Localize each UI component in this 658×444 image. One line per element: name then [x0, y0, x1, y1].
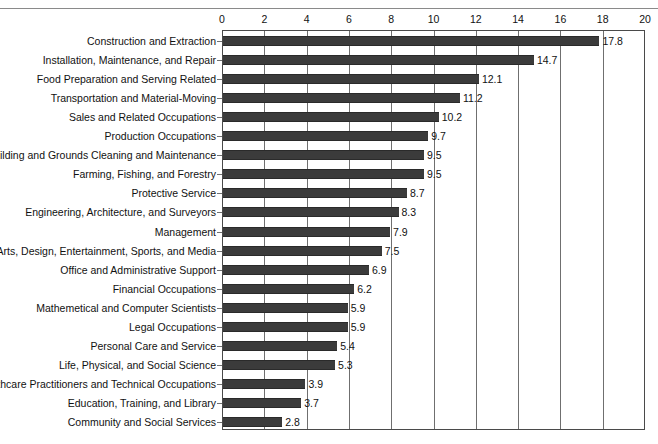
bar-row: Building and Grounds Cleaning and Mainte…: [0, 146, 658, 165]
category-axis-tick: [217, 422, 222, 423]
bar: [223, 112, 439, 122]
bar: [223, 379, 305, 389]
chart-page: 02468101214161820 Construction and Extra…: [0, 0, 658, 444]
bar: [223, 284, 354, 294]
bar-value-label: 9.5: [427, 165, 442, 184]
bar-row: Engineering, Architecture, and Surveyors…: [0, 203, 658, 222]
category-axis-tick: [217, 270, 222, 271]
x-tick-12: 12: [470, 12, 482, 26]
x-tick-0: 0: [219, 12, 225, 26]
bar-value-label: 5.4: [340, 337, 355, 356]
bar-row: Protective Service8.7: [0, 184, 658, 203]
category-axis-tick: [217, 308, 222, 309]
bar-value-label: 5.3: [338, 356, 353, 375]
bar: [223, 246, 382, 256]
bar-row: Construction and Extraction17.8: [0, 32, 658, 51]
category-label: Mathemetical and Computer Scientists: [36, 299, 216, 318]
x-tick-14: 14: [512, 12, 524, 26]
category-axis-tick: [217, 60, 222, 61]
horizontal-bar-chart: 02468101214161820 Construction and Extra…: [0, 12, 658, 444]
bar-row: Arts, Design, Entertainment, Sports, and…: [0, 242, 658, 261]
x-tick-16: 16: [555, 12, 567, 26]
category-label: Life, Physical, and Social Science: [59, 356, 216, 375]
x-axis-tick-labels: 02468101214161820: [0, 12, 658, 28]
bar-row: Financial Occupations6.2: [0, 280, 658, 299]
category-axis-tick: [217, 403, 222, 404]
category-axis-tick: [217, 212, 222, 213]
bar-row: Education, Training, and Library3.7: [0, 394, 658, 413]
bar-value-label: 8.7: [410, 184, 425, 203]
bar-value-label: 8.3: [402, 203, 417, 222]
category-label: Education, Training, and Library: [68, 394, 216, 413]
top-divider-rule: [0, 8, 658, 9]
bar: [223, 36, 599, 46]
bar: [223, 360, 335, 370]
bar-value-label: 3.9: [308, 375, 323, 394]
x-tick-18: 18: [597, 12, 609, 26]
category-label: Office and Administrative Support: [60, 261, 216, 280]
bar-row: Legal Occupations5.9: [0, 318, 658, 337]
category-label: Personal Care and Service: [91, 337, 216, 356]
bar-row: Personal Care and Service5.4: [0, 337, 658, 356]
bar: [223, 169, 424, 179]
category-axis-tick: [217, 41, 222, 42]
category-axis-tick: [217, 251, 222, 252]
bar-value-label: 9.5: [427, 146, 442, 165]
bar: [223, 207, 399, 217]
bar-value-label: 17.8: [602, 32, 622, 51]
category-label: Legal Occupations: [129, 318, 216, 337]
category-label: Food Preparation and Serving Related: [37, 70, 216, 89]
bar: [223, 265, 369, 275]
category-axis-tick: [217, 79, 222, 80]
bar-row: Food Preparation and Serving Related12.1: [0, 70, 658, 89]
bar: [223, 74, 479, 84]
category-label: Sales and Related Occupations: [69, 108, 216, 127]
bar-row: Community and Social Services2.8: [0, 413, 658, 432]
bar: [223, 150, 424, 160]
category-axis-tick: [217, 289, 222, 290]
category-label: Construction and Extraction: [87, 32, 216, 51]
category-label: Financial Occupations: [113, 280, 216, 299]
bar-row: Life, Physical, and Social Science5.3: [0, 356, 658, 375]
category-label: Management: [155, 223, 216, 242]
bar-value-label: 6.9: [372, 261, 387, 280]
bar-value-label: 7.9: [393, 223, 408, 242]
x-tick-10: 10: [428, 12, 440, 26]
bar-value-label: 5.9: [351, 318, 366, 337]
bar-value-label: 9.7: [431, 127, 446, 146]
category-label: Engineering, Architecture, and Surveyors: [25, 203, 216, 222]
bar-value-label: 7.5: [385, 242, 400, 261]
bar-value-label: 14.7: [537, 51, 557, 70]
category-axis-tick: [217, 327, 222, 328]
category-axis-tick: [217, 346, 222, 347]
bar: [223, 227, 390, 237]
x-tick-20: 20: [639, 12, 651, 26]
bar-value-label: 3.7: [304, 394, 319, 413]
bar-rows: Construction and Extraction17.8Installat…: [0, 30, 658, 430]
category-label: Protective Service: [131, 184, 216, 203]
bar-value-label: 10.2: [442, 108, 462, 127]
bar: [223, 93, 460, 103]
category-label: Building and Grounds Cleaning and Mainte…: [0, 146, 216, 165]
category-axis-tick: [217, 155, 222, 156]
bar-row: Farming, Fishing, and Forestry9.5: [0, 165, 658, 184]
bar: [223, 131, 428, 141]
category-axis-tick: [217, 117, 222, 118]
category-label: Production Occupations: [105, 127, 216, 146]
clipped-header-fragment: [0, 0, 658, 7]
bar-value-label: 2.8: [285, 413, 300, 432]
bar: [223, 188, 407, 198]
bar-row: Office and Administrative Support6.9: [0, 261, 658, 280]
bar-value-label: 11.2: [463, 89, 483, 108]
category-axis-tick: [217, 193, 222, 194]
category-axis-tick: [217, 98, 222, 99]
bar-row: Transportation and Material-Moving11.2: [0, 89, 658, 108]
category-label: Arts, Design, Entertainment, Sports, and…: [0, 242, 216, 261]
bar-row: Sales and Related Occupations10.2: [0, 108, 658, 127]
category-axis-tick: [217, 136, 222, 137]
category-label: Farming, Fishing, and Forestry: [73, 165, 216, 184]
bar-row: Installation, Maintenance, and Repair14.…: [0, 51, 658, 70]
bar: [223, 303, 348, 313]
bar: [223, 398, 301, 408]
bar: [223, 55, 534, 65]
